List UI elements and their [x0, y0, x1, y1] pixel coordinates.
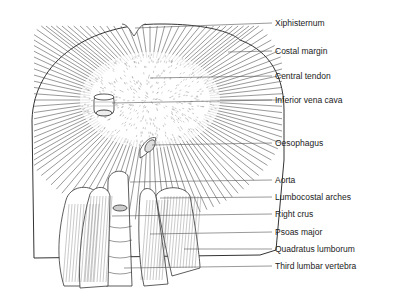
label-lumbocostal-arches: Lumbocostal arches [275, 192, 351, 202]
label-oesophagus: Oesophagus [275, 138, 323, 148]
label-xiphisternum: Xiphisternum [275, 18, 325, 28]
label-central-tendon: Central tendon [275, 71, 331, 81]
label-third-lumbar-vertebra: Third lumbar vertebra [275, 261, 356, 271]
label-costal-margin: Costal margin [275, 46, 327, 56]
label-psoas-major: Psoas major [275, 227, 322, 237]
label-quadratus-lumborum: Quadratus lumborum [275, 244, 355, 254]
label-inferior-vena-cava: Inferior vena cava [275, 95, 343, 105]
label-right-crus: Right crus [275, 209, 313, 219]
label-aorta: Aorta [275, 175, 295, 185]
inferior-vena-cava-opening [94, 94, 114, 116]
